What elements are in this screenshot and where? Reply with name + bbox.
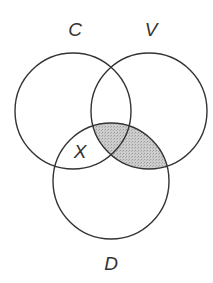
label-x: X	[73, 141, 88, 162]
venn-diagram: C V D X	[0, 0, 213, 283]
label-c: C	[68, 19, 82, 40]
label-d: D	[104, 253, 118, 274]
label-v: V	[145, 19, 160, 40]
